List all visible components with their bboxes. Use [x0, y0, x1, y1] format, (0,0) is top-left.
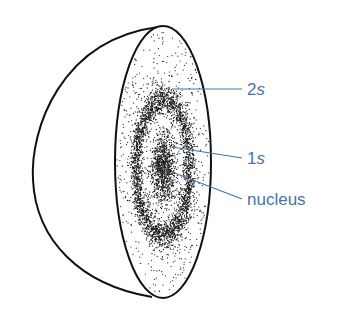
label-nucleus: nucleus [247, 191, 306, 208]
label-1s-letter: s [256, 149, 265, 168]
atom-diagram: 2s 1s nucleus [0, 0, 351, 335]
label-nucleus-text: nucleus [247, 190, 306, 209]
label-2s: 2s [247, 81, 265, 98]
label-2s-letter: s [256, 80, 265, 99]
atom-cutaway-svg [0, 0, 351, 335]
label-1s: 1s [247, 150, 265, 167]
